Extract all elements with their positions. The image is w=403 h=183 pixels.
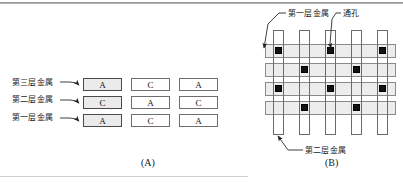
via-marker [379, 47, 386, 54]
metal-cell: A [83, 114, 122, 127]
via-marker [327, 85, 334, 92]
metal-cell: C [131, 114, 170, 127]
label-first-layer-metal: 第一层金属 [12, 113, 53, 123]
metal-cell: A [83, 78, 122, 91]
metal-cell: A [179, 114, 218, 127]
label-third-layer-metal: 第三层金属 [12, 78, 53, 88]
label-first-layer-metal-b: 第一层金属 [288, 9, 329, 19]
metal-cell: A [131, 96, 170, 109]
leader-via-stub [332, 13, 341, 19]
metal-cell: C [83, 96, 122, 109]
via-marker [301, 66, 308, 73]
label-second-layer-metal: 第二层金属 [12, 95, 53, 105]
metal-cell: C [131, 78, 170, 91]
leader-second-layer-b [278, 136, 303, 150]
label-second-layer-metal-b: 第二层金属 [305, 146, 346, 156]
vertical-track [377, 30, 388, 135]
vertical-track [273, 30, 284, 135]
leader-third-layer [60, 82, 79, 85]
top-scan-rule [0, 2, 403, 4]
label-via: 通孔 [343, 9, 359, 19]
via-marker [353, 104, 360, 111]
metal-cell: A [179, 78, 218, 91]
via-marker [353, 66, 360, 73]
caption-panel-b: (B) [325, 157, 338, 168]
leader-second-layer [60, 100, 79, 103]
via-marker [379, 85, 386, 92]
leader-first-layer [60, 118, 79, 121]
via-marker [327, 47, 334, 54]
via-marker [301, 104, 308, 111]
bottom-scan-rule [0, 176, 248, 177]
metal-cell: C [179, 96, 218, 109]
via-marker [275, 47, 282, 54]
figure-canvas: 第三层金属 第二层金属 第一层金属 A C A C A C A C A (A) [0, 0, 403, 183]
vertical-track [299, 30, 310, 135]
vertical-track [351, 30, 362, 135]
caption-panel-a: (A) [141, 157, 155, 168]
vertical-track [325, 30, 336, 135]
via-marker [275, 85, 282, 92]
